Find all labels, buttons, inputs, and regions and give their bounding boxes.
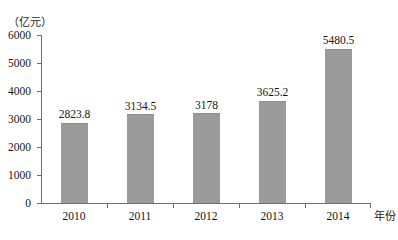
y-tick-label-6000: 6000 — [8, 30, 31, 42]
y-tick-6000: 6000 — [37, 35, 42, 36]
y-tick-label-1000: 1000 — [8, 170, 31, 182]
x-tick-divider-3 — [239, 203, 240, 208]
bar-value-2014: 5480.5 — [323, 35, 355, 47]
x-tick-divider-1 — [107, 203, 108, 208]
y-axis-unit-label: （亿元） — [8, 13, 52, 29]
bar-value-2010: 2823.8 — [59, 109, 91, 121]
y-tick-1000: 1000 — [37, 175, 42, 176]
y-tick-2000: 2000 — [37, 147, 42, 148]
x-tick-divider-5 — [370, 203, 371, 208]
bar-2014[interactable]: 5480.5 — [325, 49, 352, 204]
y-tick-0: 0 — [37, 203, 42, 204]
bar-2012[interactable]: 3178 — [193, 113, 220, 203]
bar-2013[interactable]: 3625.2 — [259, 101, 286, 204]
bar-value-2013: 3625.2 — [257, 87, 289, 99]
x-category-label-2014: 2014 — [327, 211, 350, 223]
x-category-label-2010: 2010 — [63, 211, 86, 223]
y-tick-4000: 4000 — [37, 91, 42, 92]
bar-2011[interactable]: 3134.5 — [127, 114, 154, 203]
x-category-label-2012: 2012 — [195, 211, 218, 223]
plot-area: 0 1000 2000 3000 4000 5000 6000 2823.8 — [41, 35, 371, 203]
x-tick-divider-4 — [305, 203, 306, 208]
y-tick-5000: 5000 — [37, 63, 42, 64]
bar-chart: （亿元） 0 1000 2000 3000 4000 5000 6000 — [0, 0, 398, 240]
y-tick-label-4000: 4000 — [8, 86, 31, 98]
bar-value-2012: 3178 — [195, 100, 218, 112]
x-category-label-2011: 2011 — [129, 211, 152, 223]
y-tick-3000: 3000 — [37, 119, 42, 120]
x-category-label-2013: 2013 — [261, 211, 284, 223]
bar-value-2011: 3134.5 — [125, 101, 157, 113]
y-tick-label-3000: 3000 — [8, 114, 31, 126]
x-axis-title: 年份 — [374, 211, 396, 222]
bar-2010[interactable]: 2823.8 — [61, 123, 88, 203]
y-tick-label-0: 0 — [25, 198, 31, 210]
y-tick-label-5000: 5000 — [8, 58, 31, 70]
x-tick-divider-2 — [173, 203, 174, 208]
x-axis-line — [41, 203, 371, 204]
y-tick-label-2000: 2000 — [8, 142, 31, 154]
